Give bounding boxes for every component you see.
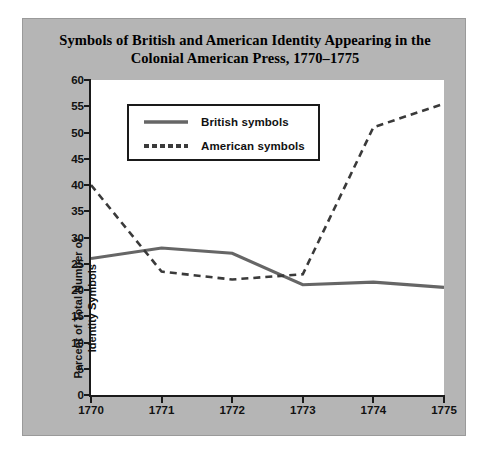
line-british-symbols	[91, 248, 444, 287]
y-tick-label: 35	[71, 205, 84, 217]
x-tick-label: 1772	[219, 404, 245, 416]
y-tick-mark	[84, 237, 91, 239]
x-tick-mark	[90, 395, 92, 403]
y-tick-label: 50	[71, 127, 84, 139]
y-tick-label: 5	[78, 363, 84, 375]
legend-item-american: American symbols	[129, 134, 318, 158]
y-tick-mark	[84, 132, 91, 134]
x-tick-mark	[161, 395, 163, 403]
x-tick-mark	[231, 395, 233, 403]
plot-area: Percent of Total Number of Identity Symb…	[89, 80, 444, 397]
y-tick-mark	[84, 315, 91, 317]
y-tick-mark	[84, 105, 91, 107]
chart-legend: British symbols American symbols	[127, 104, 320, 161]
y-tick-mark	[84, 210, 91, 212]
chart-title-line-1: Symbols of British and American Identity…	[23, 31, 467, 49]
y-tick-mark	[84, 184, 91, 186]
x-tick-label: 1775	[431, 404, 457, 416]
chart-figure: Symbols of British and American Identity…	[22, 18, 466, 436]
y-tick-mark	[84, 289, 91, 291]
x-tick-label: 1771	[149, 404, 175, 416]
y-tick-label: 40	[71, 179, 84, 191]
legend-swatch-british	[143, 117, 189, 127]
x-tick-mark	[443, 395, 445, 403]
y-tick-mark	[84, 368, 91, 370]
y-tick-label: 60	[71, 74, 84, 86]
x-tick-label: 1770	[78, 404, 104, 416]
x-tick-label: 1773	[290, 404, 316, 416]
y-tick-label: 45	[71, 153, 84, 165]
y-tick-label: 30	[71, 232, 84, 244]
y-tick-mark	[84, 158, 91, 160]
y-tick-label: 20	[71, 284, 84, 296]
y-tick-label: 15	[71, 310, 84, 322]
x-tick-mark	[372, 395, 374, 403]
y-tick-mark	[84, 79, 91, 81]
y-tick-label: 55	[71, 100, 84, 112]
chart-title-line-2: Colonial American Press, 1770–1775	[23, 49, 467, 67]
x-tick-mark	[302, 395, 304, 403]
legend-label-american: American symbols	[201, 140, 305, 152]
y-tick-mark	[84, 342, 91, 344]
chart-title: Symbols of British and American Identity…	[23, 31, 467, 67]
legend-swatch-american	[143, 141, 189, 151]
y-tick-label: 0	[78, 389, 84, 401]
x-tick-label: 1774	[361, 404, 387, 416]
legend-item-british: British symbols	[129, 110, 318, 134]
y-tick-label: 10	[71, 337, 84, 349]
y-tick-mark	[84, 263, 91, 265]
y-tick-label: 25	[71, 258, 84, 270]
legend-label-british: British symbols	[201, 116, 289, 128]
